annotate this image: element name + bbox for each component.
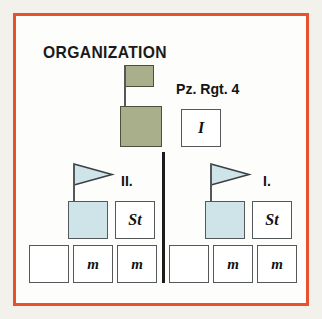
battalion-2-unit-symbol: [68, 201, 108, 239]
battalion-2-company-2: m: [73, 245, 113, 283]
battalion-2-flag-pole-icon: [73, 164, 75, 204]
diagram-frame: ORGANIZATION Pz. Rgt. 4 I II. St: [13, 13, 309, 306]
battalion-2-staff-box-label: St: [116, 202, 154, 238]
regiment-label: Pz. Rgt. 4: [176, 80, 239, 97]
battalion-1-unit-symbol: [205, 201, 245, 239]
battalion-1-flag-icon: [209, 162, 255, 188]
regiment-unit-symbol: [120, 106, 162, 147]
regiment-flag-icon: [124, 65, 154, 87]
regiment-staff-box-label: I: [182, 110, 220, 146]
battalion-1-staff-box: St: [252, 201, 292, 239]
battalion-2-company-3-label: m: [118, 246, 156, 282]
regiment-staff-box: I: [181, 109, 221, 147]
regiment-flag-pole-icon: [124, 65, 126, 108]
battalion-2-company-2-label: m: [74, 246, 112, 282]
organization-diagram: ORGANIZATION Pz. Rgt. 4 I II. St: [0, 0, 322, 319]
center-divider: [162, 152, 165, 283]
battalion-1-flag-pole-icon: [210, 164, 212, 204]
battalion-1-company-2-label: m: [214, 246, 252, 282]
page-title: ORGANIZATION: [43, 43, 167, 63]
battalion-2-company-1-label: [30, 246, 68, 282]
battalion-2-flag-icon: [72, 162, 118, 188]
battalion-1-company-3-label: m: [258, 246, 296, 282]
battalion-1-company-1: [169, 245, 209, 283]
battalion-2-company-1: [29, 245, 69, 283]
battalion-1-label: I.: [263, 173, 271, 189]
battalion-1-company-2: m: [213, 245, 253, 283]
battalion-2-company-3: m: [117, 245, 157, 283]
battalion-2-staff-box: St: [115, 201, 155, 239]
battalion-1-staff-box-label: St: [253, 202, 291, 238]
battalion-1-company-1-label: [170, 246, 208, 282]
battalion-2-label: II.: [121, 173, 133, 189]
battalion-1-company-3: m: [257, 245, 297, 283]
